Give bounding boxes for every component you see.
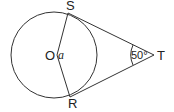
tangent-r-t <box>70 55 154 97</box>
label-s: S <box>66 0 75 13</box>
label-a: a <box>58 48 64 62</box>
label-o: O <box>45 48 55 63</box>
circle-tangent-diagram: S R O a T 50° <box>0 0 174 112</box>
label-r: R <box>68 96 77 111</box>
label-angle-t: 50° <box>131 49 148 61</box>
label-t: T <box>157 48 165 63</box>
